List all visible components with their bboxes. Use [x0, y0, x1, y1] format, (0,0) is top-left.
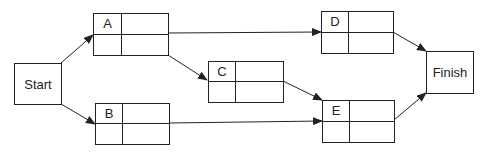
node-a-label: A	[94, 14, 122, 35]
edge-b-e	[169, 121, 322, 123]
node-d-cell-2	[322, 33, 349, 54]
finish-label: Finish	[433, 65, 468, 80]
node-a-cell-2	[94, 35, 122, 56]
edge-start-b	[61, 104, 95, 124]
node-b-label: B	[96, 104, 123, 124]
node-a-cell-3	[122, 35, 168, 56]
node-b-cell-1	[123, 104, 169, 124]
activity-node-d: D	[321, 11, 394, 54]
edge-e-finish	[394, 93, 426, 120]
node-c-label: C	[209, 62, 236, 82]
node-c-cell-2	[209, 82, 236, 102]
node-e-label: E	[323, 101, 350, 122]
edge-a-d	[168, 32, 321, 33]
edge-d-finish	[393, 32, 426, 51]
node-d-cell-3	[349, 33, 393, 54]
node-e-cell-3	[350, 122, 394, 143]
activity-node-b: B	[95, 103, 170, 145]
node-c-cell-1	[236, 62, 283, 82]
node-d-label: D	[322, 12, 349, 33]
edge-a-c	[168, 55, 207, 80]
node-d-cell-1	[349, 12, 393, 33]
edge-c-e	[283, 81, 322, 100]
activity-node-e: E	[322, 100, 395, 143]
edge-start-a	[61, 35, 93, 63]
node-e-cell-2	[323, 122, 350, 143]
finish-node: Finish	[426, 51, 474, 94]
activity-node-a: A	[93, 13, 169, 56]
start-label: Start	[24, 77, 51, 92]
node-c-cell-3	[236, 82, 283, 102]
node-b-cell-3	[123, 124, 169, 144]
node-e-cell-1	[350, 101, 394, 122]
start-node: Start	[14, 63, 62, 105]
node-b-cell-2	[96, 124, 123, 144]
activity-node-c: C	[208, 61, 284, 103]
node-a-cell-1	[122, 14, 168, 35]
